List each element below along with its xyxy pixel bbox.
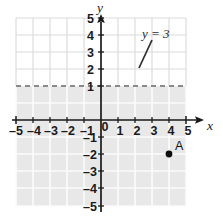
x-tick-label-3: 3 (151, 124, 158, 138)
x-tick-label--4: –4 (27, 124, 41, 138)
plotted-point-a-label: A (175, 139, 184, 153)
x-axis-name: x (206, 118, 213, 133)
origin-label: 0 (102, 120, 109, 134)
x-tick-label--5: –5 (9, 124, 23, 138)
x-tick-label--2: –2 (61, 124, 75, 138)
y-tick-label-4: 4 (87, 29, 94, 43)
y-tick-label--3: –3 (83, 165, 97, 179)
y-tick-label--4: –4 (83, 182, 97, 196)
x-tick-label-2: 2 (134, 124, 141, 138)
equation-label-y-equals-3: y = 3 (140, 26, 170, 41)
x-tick-label--3: –3 (44, 124, 58, 138)
x-tick-label-1: 1 (117, 124, 124, 138)
y-tick-label--5: –5 (83, 200, 97, 214)
y-tick-label-2: 2 (87, 63, 94, 77)
x-tick-label-5: 5 (185, 124, 192, 138)
coordinate-plane-svg: –5 –4 –3 –2 –1 1 2 3 4 5 5 4 3 2 1 –1 –2… (0, 0, 223, 224)
y-tick-label-3: 3 (87, 46, 94, 60)
y-tick-label--1: –1 (83, 131, 97, 145)
y-tick-label-5: 5 (87, 12, 94, 26)
coordinate-plane-figure: –5 –4 –3 –2 –1 1 2 3 4 5 5 4 3 2 1 –1 –2… (0, 0, 223, 224)
y-tick-label-1: 1 (87, 80, 94, 94)
plotted-point-a (166, 151, 173, 158)
x-tick-label-4: 4 (168, 124, 175, 138)
y-tick-label--2: –2 (83, 148, 97, 162)
y-axis-name: y (95, 0, 103, 15)
